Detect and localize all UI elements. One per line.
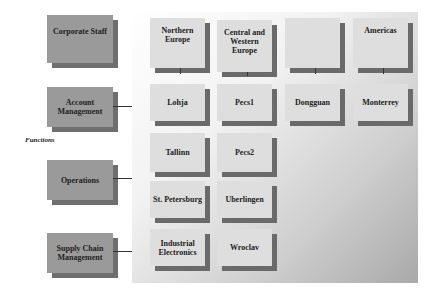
site-pecs1: Pecs1 (217, 84, 272, 121)
region-northern-europe: Northern Europe (150, 18, 205, 68)
function-label: Supply Chain Management (49, 244, 111, 262)
region-label: Central and Western Europe (219, 28, 270, 55)
site-dongguan: Dongguan (285, 84, 340, 121)
region-label: Americas (364, 26, 396, 35)
region-unlabeled (285, 18, 340, 68)
site-label: Monterrey (362, 98, 399, 107)
site-wroclav: Wroclav (217, 229, 272, 266)
site-label: Dongguan (295, 98, 330, 107)
function-label: Corporate Staff (53, 27, 107, 36)
site-industrial-electronics: Industrial Electronics (150, 229, 205, 266)
connector-line (180, 68, 181, 74)
site-label: Pecs2 (235, 148, 254, 157)
region-label: Northern Europe (152, 26, 203, 44)
site-label: Wroclav (230, 243, 259, 252)
site-tallinn: Tallinn (150, 133, 205, 172)
function-account-management: Account Management (47, 87, 113, 127)
site-label: Tallinn (165, 148, 189, 157)
connector-line (315, 68, 316, 74)
function-operations: Operations (47, 160, 113, 200)
site-pecs2: Pecs2 (217, 133, 272, 172)
connector-line (247, 72, 248, 76)
connector-line (113, 178, 132, 179)
functions-label: Functions (25, 136, 55, 144)
region-central-western-europe: Central and Western Europe (217, 20, 272, 72)
site-st-petersburg: St. Petersburg (150, 181, 205, 218)
site-label: Lohja (167, 98, 187, 107)
connector-line (113, 251, 132, 252)
site-label: Uberlingen (225, 195, 263, 204)
connector-line (113, 106, 132, 107)
site-label: St. Petersburg (153, 195, 202, 204)
site-monterrey: Monterrey (353, 84, 408, 121)
site-lohja: Lohja (150, 84, 205, 121)
function-supply-chain-management: Supply Chain Management (47, 233, 113, 273)
function-label: Operations (61, 176, 99, 185)
function-corporate-staff: Corporate Staff (47, 15, 113, 63)
region-americas: Americas (353, 18, 408, 68)
site-uberlingen: Uberlingen (217, 181, 272, 218)
site-label: Industrial Electronics (152, 239, 203, 257)
function-label: Account Management (49, 98, 111, 116)
connector-line (383, 68, 384, 74)
site-label: Pecs1 (235, 98, 254, 107)
